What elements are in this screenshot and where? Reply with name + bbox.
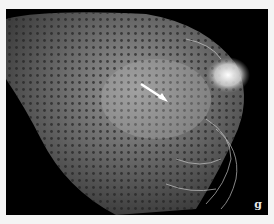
medical-image-panel: g xyxy=(6,9,268,215)
panel-label: g xyxy=(254,198,262,211)
mammogram-image xyxy=(6,9,268,215)
